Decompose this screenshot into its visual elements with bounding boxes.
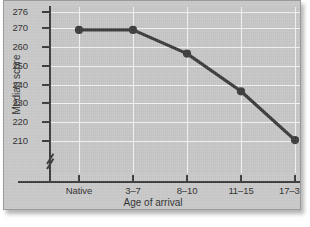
y-axis-tick	[42, 27, 49, 29]
y-axis-tick	[42, 121, 49, 123]
x-axis-tick	[78, 175, 80, 182]
data-point	[183, 50, 191, 58]
y-axis-tick	[42, 65, 49, 67]
data-point	[129, 26, 137, 34]
y-axis-title: Median score	[11, 45, 22, 125]
y-axis-tick-label: 270	[3, 22, 28, 33]
x-axis-tick	[186, 175, 188, 182]
chart-figure: 276 270 260 250 240 230 220 210 Native 3…	[0, 0, 308, 227]
x-axis-line	[18, 181, 301, 183]
x-axis-title: Age of arrival	[4, 197, 301, 208]
x-axis-tick	[240, 175, 242, 182]
chart-panel: 276 270 260 250 240 230 220 210 Native 3…	[3, 0, 301, 210]
data-point	[291, 136, 299, 144]
x-axis-tick	[132, 175, 134, 182]
y-axis-tick	[42, 11, 49, 13]
data-series-line	[50, 7, 301, 173]
plot-area	[50, 7, 301, 173]
y-axis-tick	[42, 102, 49, 104]
y-axis-tick	[42, 84, 49, 86]
data-point	[75, 26, 83, 34]
x-axis-tick-label: Native	[49, 185, 109, 196]
axis-break-icon	[43, 153, 57, 169]
y-axis-tick-label: 276	[3, 6, 28, 17]
x-axis-tick-label: 8–10	[157, 185, 217, 196]
y-axis-tick-label: 210	[3, 135, 28, 146]
x-axis-tick	[294, 175, 296, 182]
data-point	[237, 87, 245, 95]
x-axis-tick-label: 3–7	[103, 185, 163, 196]
x-axis-tick-label: 17–39	[262, 185, 301, 196]
data-point-markers	[75, 26, 299, 144]
y-axis-tick	[42, 46, 49, 48]
y-axis-tick	[42, 140, 49, 142]
